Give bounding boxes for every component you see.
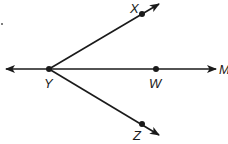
point-w	[153, 66, 159, 72]
label-z: Z	[132, 128, 142, 143]
geometry-diagram: X Y W Z M	[0, 0, 228, 144]
stray-dot	[1, 23, 3, 25]
point-x	[139, 11, 145, 17]
label-m: M	[219, 62, 228, 77]
label-x: X	[129, 1, 140, 16]
label-y: Y	[44, 76, 54, 91]
point-z	[139, 121, 145, 127]
point-y	[46, 66, 52, 72]
label-w: W	[149, 76, 163, 91]
